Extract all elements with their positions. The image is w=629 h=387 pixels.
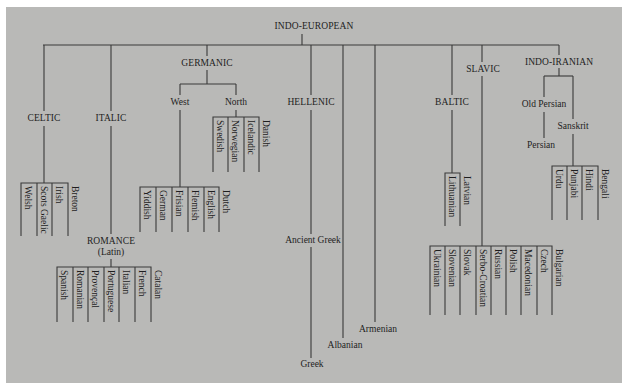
node-armenian: Armenian xyxy=(359,324,397,335)
node-celtic: CELTIC xyxy=(28,113,61,124)
node-sanskrit: Sanskrit xyxy=(557,121,588,132)
node-indo-iranian: INDO-IRANIAN xyxy=(525,57,593,68)
lang-danish: Danish xyxy=(260,120,271,147)
node-romance: ROMANCE xyxy=(87,236,135,247)
lang-portuguese: Portuguese xyxy=(105,270,116,312)
lang-swedish: Swedish xyxy=(214,120,225,152)
lang-lithuanian: Lithuanian xyxy=(446,176,457,217)
lang-spanish: Spanish xyxy=(58,270,69,300)
lang-norwegian: Norwegian xyxy=(229,120,240,162)
node-north-germanic: North xyxy=(225,97,247,108)
lang-bulgarian: Bulgarian xyxy=(553,249,564,286)
lang-russian: Russian xyxy=(492,249,503,279)
node-slavic: SLAVIC xyxy=(466,64,500,75)
node-persian: Persian xyxy=(527,140,555,151)
lang-slovenian: Slovenian xyxy=(446,249,457,287)
node-ancient-greek: Ancient Greek xyxy=(285,235,341,246)
lang-slovak: Slovak xyxy=(461,249,472,275)
lang-breton: Breton xyxy=(69,186,80,212)
node-greek: Greek xyxy=(300,359,323,370)
lang-flemish: Flemish xyxy=(189,190,200,221)
lang-hindi: Hindi xyxy=(583,169,594,191)
lang-dutch: Dutch xyxy=(220,190,231,213)
lang-german: German xyxy=(157,190,168,221)
node-hellenic: HELLENIC xyxy=(287,97,334,108)
lang-welsh: Welsh xyxy=(22,186,33,210)
lang-yiddish: Yiddish xyxy=(141,190,152,220)
lang-serbo-croatian: Serbo-Croatian xyxy=(477,249,488,307)
node-italic: ITALIC xyxy=(96,113,127,124)
lang-latvian: Latvian xyxy=(461,176,472,205)
node-albanian: Albanian xyxy=(328,340,363,351)
lang-french: French xyxy=(136,270,147,296)
node-indo-european: INDO-EUROPEAN xyxy=(275,21,354,32)
lang-romanian: Romanian xyxy=(74,270,85,309)
lang-irish: Irish xyxy=(53,186,64,203)
lang-polish: Polish xyxy=(507,249,518,273)
node-baltic: BALTIC xyxy=(435,97,469,108)
node-west-germanic: West xyxy=(171,97,190,108)
node-old-persian: Old Persian xyxy=(522,99,567,110)
lang-czech: Czech xyxy=(538,249,549,273)
node-germanic: GERMANIC xyxy=(181,58,232,69)
lang-bengali: Bengali xyxy=(599,169,610,199)
lang-ukrainian: Ukrainian xyxy=(431,249,442,287)
lang-catalan: Catalan xyxy=(152,270,163,299)
lang-macedonian: Macedonian xyxy=(522,249,533,296)
lang-provencal: Provençal xyxy=(89,270,100,308)
lang-italian: Italian xyxy=(120,270,131,294)
node-latin: (Latin) xyxy=(98,247,124,258)
lang-icelandic: Icelandic xyxy=(245,120,256,155)
lang-punjabi: Punjabi xyxy=(568,169,579,198)
lang-frisian: Frisian xyxy=(173,190,184,216)
lang-english: English xyxy=(205,190,216,219)
lang-scots-gaelic: Scots Gaelic xyxy=(38,186,49,234)
lang-urdu: Urdu xyxy=(553,169,564,189)
